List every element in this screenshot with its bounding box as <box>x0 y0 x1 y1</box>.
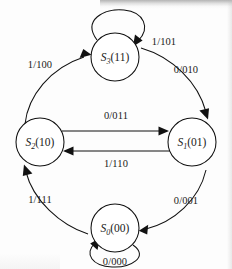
arrowhead-s1-s2 <box>63 146 74 155</box>
arrowhead-s2-s1 <box>159 126 170 135</box>
transition-s1-to-s2 <box>63 146 170 155</box>
edge-label-s2-s3: 1/100 <box>28 59 52 70</box>
transition-s2-to-s1 <box>62 126 169 135</box>
arrowhead-s0-s2 <box>23 165 33 177</box>
arrowhead-s3-s1 <box>199 108 209 119</box>
edge-label-s3-self: 1/101 <box>152 36 176 47</box>
edge-label-s1-s0: 0/001 <box>174 195 198 206</box>
edge-label-s0-s2: 1/111 <box>28 194 52 205</box>
edge-path-s3-s1 <box>141 48 206 112</box>
state-diagram-figure: S3(11) S1(01) S0(00) S2(10) 1/100 1/101 … <box>0 0 232 269</box>
arrowhead-s1-s0 <box>139 225 148 235</box>
transition-s3-to-s1 <box>141 48 209 120</box>
arrowhead-s2-s3 <box>80 49 92 58</box>
edge-label-s3-s1: 0/010 <box>174 64 198 75</box>
edge-label-s2-s1: 0/011 <box>104 110 128 121</box>
diagram-canvas: S3(11) S1(01) S0(00) S2(10) 1/100 1/101 … <box>0 0 232 269</box>
edge-label-s1-s2: 1/110 <box>104 158 128 169</box>
edge-label-s0-self: 0/000 <box>103 256 127 267</box>
